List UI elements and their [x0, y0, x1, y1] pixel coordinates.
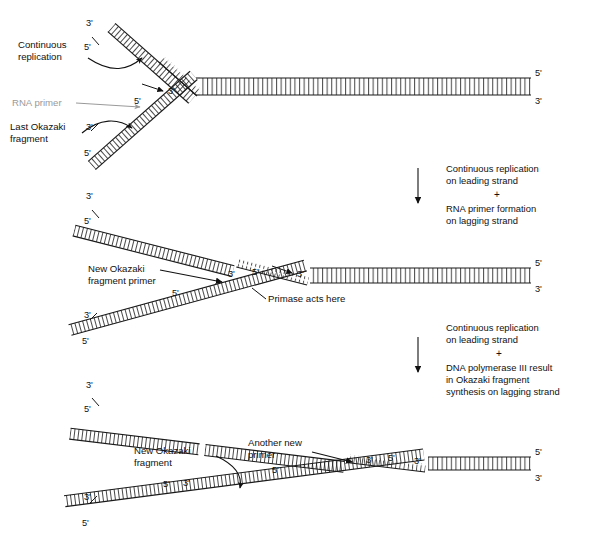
panel1-last-okazaki-label-line1: Last Okazaki: [10, 121, 65, 132]
panel1-parental-duplex: [200, 78, 531, 95]
panel3-another-primer-label-line1: Another new: [248, 437, 302, 448]
panel2-end-primer-left-3: 3ʹ: [228, 269, 235, 279]
panel2-end-right-lower: 3ʹ: [535, 284, 542, 294]
panel3-end-junction-5: 5ʹ: [163, 479, 170, 489]
panel3-end-fork-center: 3ʹ: [414, 456, 421, 466]
panel2-end-top-left-lower: 5ʹ: [84, 216, 91, 226]
panel1-end-bottom-left-upper: 3ʹ: [86, 122, 93, 132]
panel3-parental-duplex: [428, 457, 531, 470]
transition2-plus: +: [496, 348, 502, 359]
panel2-end-right-upper: 5ʹ: [535, 258, 542, 268]
transition2-line4: in Okazaki fragment: [446, 374, 530, 385]
panel1-rna-primer-label: RNA primer: [12, 97, 62, 108]
panel2-new-okazaki-primer-label-line1: New Okazaki: [88, 263, 145, 274]
panel1-end-top-left-lower: 5ʹ: [84, 42, 91, 52]
panel2-end-primer-right-5: 5ʹ: [252, 267, 259, 277]
panel1-continuous-replication-label-line1: Continuous: [18, 39, 67, 50]
panel3-end-right-lower: 3ʹ: [535, 473, 542, 483]
panel1-end-right-upper: 5ʹ: [535, 68, 542, 78]
transition1-line2: on leading strand: [446, 175, 518, 186]
panel3-new-okazaki-label-line1: New Okazaki: [134, 445, 191, 456]
panel3-new-okazaki-label-line2: fragment: [134, 457, 172, 468]
panel1-end-fork-center: 3ʹ: [168, 86, 175, 96]
panel3-end-primer-left-3: 3ʹ: [366, 455, 373, 465]
panel2-end-lagging-5: 5ʹ: [172, 288, 179, 298]
transition1-plus: +: [494, 189, 500, 200]
panel3-end-bottom-left-upper: 3ʹ: [84, 492, 91, 502]
panel2-new-okazaki-primer-label-line2: fragment primer: [88, 275, 157, 286]
transition1-line4: on lagging strand: [446, 215, 518, 226]
panel2-parental-duplex: [310, 268, 531, 283]
panel3-end-top-left-lower: 5ʹ: [84, 404, 91, 414]
panel1-last-okazaki-label-line2: fragment: [10, 133, 48, 144]
transition2-line2: on leading strand: [446, 334, 518, 345]
transition2-line3: DNA polymerase III result: [446, 362, 553, 373]
panel3-end-primer-right-5: 5ʹ: [388, 453, 395, 463]
panel3-end-bottom-left-lower: 5ʹ: [82, 518, 89, 528]
panel2-end-top-left-upper: 3ʹ: [86, 191, 93, 201]
dna-replication-figure: Continuous replication RNA primer Last O…: [0, 0, 590, 543]
panel1-continuous-replication-label-line2: replication: [18, 51, 62, 62]
transition2-line1: Continuous replication: [446, 322, 539, 333]
panel3-end-lagging-5: 5ʹ: [272, 465, 279, 475]
panel1-end-top-left-upper: 3ʹ: [86, 18, 93, 28]
panel3-end-right-upper: 5ʹ: [535, 447, 542, 457]
panel3-another-primer-label-line2: primer: [248, 449, 276, 460]
panel2-primase-label: Primase acts here: [268, 293, 345, 304]
panel3-end-junction-3: 3ʹ: [183, 478, 190, 488]
panel2-end-bottom-left-upper: 3ʹ: [84, 310, 91, 320]
panel2-end-fork-center: 3ʹ: [297, 269, 304, 279]
panel1-end-lagging-primer-5: 5ʹ: [134, 96, 141, 106]
transition1-line3: RNA primer formation: [446, 203, 536, 214]
panel1-end-bottom-left-lower: 5ʹ: [84, 148, 91, 158]
panel1-end-right-lower: 3ʹ: [535, 96, 542, 106]
transition1-line1: Continuous replication: [446, 163, 539, 174]
panel3-end-top-left-upper: 3ʹ: [86, 380, 93, 390]
panel2-end-bottom-left-lower: 5ʹ: [82, 336, 89, 346]
transition2-line5: synthesis on lagging strand: [446, 386, 560, 397]
